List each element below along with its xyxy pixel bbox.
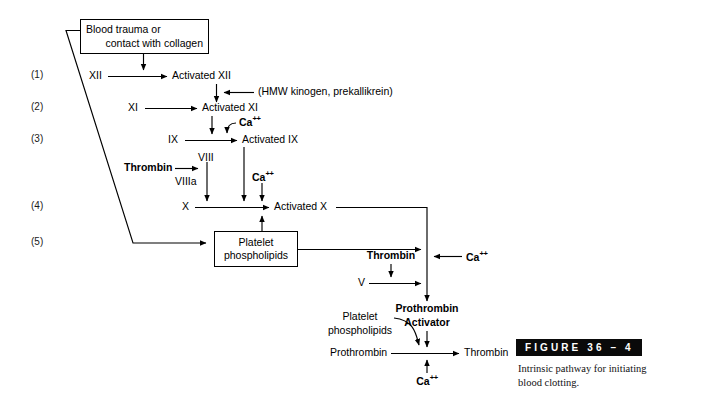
figure-canvas: (1) (2) (3) (4) (5) Blood trauma or cont… — [0, 0, 724, 415]
calcium-label-2: Ca++ — [252, 170, 274, 183]
figure-number-bar: FIGURE 36 – 4 — [516, 339, 642, 356]
node-ix: IX — [168, 134, 178, 145]
node-xi: XI — [128, 102, 138, 113]
calcium-label-3: Ca++ — [466, 250, 488, 263]
node-thrombin-out: Thrombin — [464, 347, 508, 358]
platelet-box-line2: phospholipids — [224, 249, 288, 262]
node-v: V — [358, 277, 365, 288]
calcium-text-1: Ca — [239, 116, 252, 128]
blood-trauma-line1: Blood trauma or — [81, 23, 161, 36]
node-activated-x: Activated X — [274, 201, 327, 212]
platelet-phospholipids-box: Platelet phospholipids — [214, 231, 298, 267]
node-activated-xii: Activated XII — [172, 70, 231, 81]
calcium-label-4: Ca++ — [416, 374, 438, 387]
node-platelet-phospholipids-line1: Platelet — [342, 311, 377, 322]
node-thrombin-viii: Thrombin — [124, 162, 172, 173]
figure-caption: Intrinsic pathway for initiating blood c… — [518, 362, 668, 389]
calcium-sup-1: ++ — [252, 114, 260, 123]
blood-trauma-box: Blood trauma or contact with collagen — [80, 19, 209, 54]
calcium-label-1: Ca++ — [239, 115, 261, 128]
node-viii: VIII — [198, 152, 214, 163]
node-viiia: VIIIa — [175, 176, 197, 187]
calcium-text-4: Ca — [416, 375, 429, 387]
platelet-box-line1: Platelet — [238, 236, 273, 249]
calcium-sup-3: ++ — [479, 249, 487, 258]
calcium-sup-2: ++ — [265, 169, 273, 178]
node-prothrombin-activator-line1: Prothrombin — [396, 303, 459, 314]
node-x: X — [182, 201, 189, 212]
blood-trauma-line2: contact with collagen — [106, 37, 208, 50]
step-number-1: (1) — [31, 70, 43, 81]
step-number-3: (3) — [31, 134, 43, 145]
calcium-text-3: Ca — [466, 251, 479, 263]
node-thrombin-v: Thrombin — [367, 250, 415, 261]
node-prothrombin-activator-line2: Activator — [404, 317, 450, 328]
node-platelet-phospholipids-line2: phospholipids — [328, 325, 392, 336]
node-xii: XII — [89, 70, 102, 81]
node-activated-xi: Activated XI — [202, 102, 258, 113]
node-prothrombin: Prothrombin — [330, 347, 387, 358]
node-hmw-kinogen-prekallikrein: (HMW kinogen, prekallikrein) — [258, 86, 393, 97]
step-number-4: (4) — [31, 201, 43, 212]
calcium-text-2: Ca — [252, 171, 265, 183]
step-number-2: (2) — [31, 102, 43, 113]
step-number-5: (5) — [31, 237, 43, 248]
node-activated-ix: Activated IX — [242, 134, 298, 145]
calcium-sup-4: ++ — [430, 373, 438, 382]
